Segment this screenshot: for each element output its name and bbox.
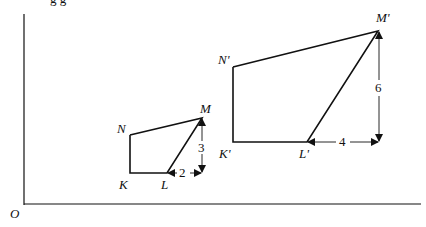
dilation-diagram: g g O N M K L 3 2 N' M' K' L' 6 (0, 0, 426, 227)
label-k-prime: K' (218, 146, 231, 161)
label-n: N (116, 121, 127, 136)
large-horizontal-dim: 4 (339, 134, 346, 149)
label-l-prime: L' (298, 146, 309, 161)
large-vertical-dim: 6 (375, 80, 382, 95)
label-m: M (199, 101, 212, 116)
label-l: L (160, 177, 168, 192)
small-quadrilateral: N M K L 3 2 (116, 101, 212, 192)
large-quadrilateral: N' M' K' L' 6 4 (217, 10, 390, 161)
small-vertical-dim: 3 (198, 140, 205, 155)
label-k: K (118, 177, 129, 192)
label-m-prime: M' (375, 10, 390, 25)
small-horizontal-dim: 2 (179, 165, 186, 180)
label-n-prime: N' (217, 52, 230, 67)
clipped-caption: g g (50, 0, 67, 6)
origin-label: O (10, 206, 20, 221)
